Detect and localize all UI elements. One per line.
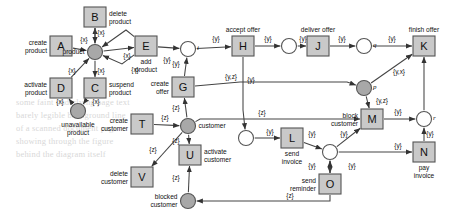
transition-letter: H [239,40,247,52]
place-circle[interactable] [181,194,196,209]
place-unavailable[interactable] [71,104,86,119]
transition-letter: B [91,11,98,23]
transition-j[interactable]: J [307,36,329,56]
transition-v[interactable]: V [131,167,153,187]
edge-label: {z} [258,109,266,117]
edge-label: {z} [172,174,180,182]
place-circle[interactable] [282,39,297,54]
edge-label: {y} [394,108,402,116]
transition-g[interactable]: G [172,77,194,97]
transition-letter: K [420,40,428,52]
edge-label: {x} [80,36,88,44]
edge-label: {z} [172,104,180,112]
edge-label: {y} [266,128,274,136]
place-product[interactable] [88,45,103,60]
place-circle[interactable] [357,81,372,96]
net-edge [154,125,179,126]
net-edge [371,54,412,83]
net-edge [195,82,356,86]
place-blocked[interactable] [181,194,196,209]
transition-caption: deletecustomer [101,170,129,185]
transition-letter: T [139,118,146,130]
net-edge [188,166,189,192]
net-edge [184,98,186,117]
place-circle[interactable] [181,42,196,57]
transition-letter: J [315,40,321,52]
place-customer[interactable] [181,119,196,134]
transition-h[interactable]: H [232,36,254,56]
place-tag: r [433,114,436,122]
edge-label: {x} [97,67,105,75]
place-caption: unavailableproduct [61,121,95,137]
transition-caption: createoffer [151,80,170,95]
transition-letter: E [142,40,149,52]
place-afterH[interactable] [282,39,297,54]
edge-label: {y} [299,35,307,43]
transition-letter: U [186,149,194,161]
transition-caption: sendinvoice [282,150,303,165]
place-circle[interactable] [357,39,372,54]
edge-label: {x} [56,98,64,106]
transition-caption: deleteproduct [109,10,131,26]
place-invoice[interactable] [239,131,254,146]
transition-caption: activateproduct [24,81,47,97]
place-circle[interactable] [181,119,196,134]
place-circle[interactable] [323,145,338,160]
transition-letter: G [179,81,188,93]
place-caption: customer [199,122,227,129]
net-edge [102,30,134,47]
petri-net-graph: {x}{x}{x}{x}{x}{x}{x}{y}{y}{y}{y}{y}{y}{… [0,0,458,223]
net-edge [83,99,87,104]
place-circle[interactable] [417,112,432,127]
net-edge [189,135,190,144]
place-tag: q [373,41,377,49]
transition-t[interactable]: T [131,114,153,134]
transition-c[interactable]: C [84,78,106,98]
transition-letter: N [420,146,428,158]
edge-label: {y,z} [376,97,389,105]
edge-label: {x} [92,98,100,106]
transition-b[interactable]: B [84,7,106,27]
net-edge [197,47,231,49]
edge-label: {y} [340,130,348,138]
transition-caption: blockcustomer [331,112,359,127]
place-circle[interactable] [239,131,254,146]
place-diamond[interactable] [323,145,338,160]
place-tag: i [197,44,199,52]
transition-m[interactable]: M [361,109,383,129]
edge-label: {x} [123,52,131,60]
transition-caption: deliver offer [301,26,336,33]
place-r[interactable] [417,112,432,127]
place-circle[interactable] [88,45,103,60]
edge-label: {x} [68,67,76,75]
diagram-canvas: some faint underlying page textbarely le… [0,0,458,223]
transition-u[interactable]: U [179,145,201,165]
transition-o[interactable]: O [319,174,341,194]
transition-letter: D [57,82,65,94]
transition-letter: O [326,178,335,190]
net-edge [366,96,369,108]
place-q[interactable] [357,39,372,54]
transition-d[interactable]: D [50,78,72,98]
net-edge [184,58,186,76]
transition-caption: activatecustomer [204,148,232,163]
transition-l[interactable]: L [281,128,303,148]
place-i[interactable] [181,42,196,57]
transition-caption: createcustomer [101,117,129,132]
edge-label: {z} [161,114,169,122]
edge-label: {y,x} [393,68,406,76]
place-caption: blockedcustomer [150,193,178,208]
place-p[interactable] [357,81,372,96]
edge-label: {y} [247,76,255,84]
transition-caption: addproduct [135,58,157,74]
edge-label: {y} [172,60,180,68]
place-circle[interactable] [71,104,86,119]
edge-label: {y} [388,35,396,43]
transition-k[interactable]: K [413,36,435,56]
transition-e[interactable]: E [135,36,157,56]
net-edge [69,99,73,104]
edge-label: {z} [286,192,294,200]
transition-letter: L [289,132,295,144]
transition-n[interactable]: N [413,142,435,162]
net-edge [304,142,322,149]
